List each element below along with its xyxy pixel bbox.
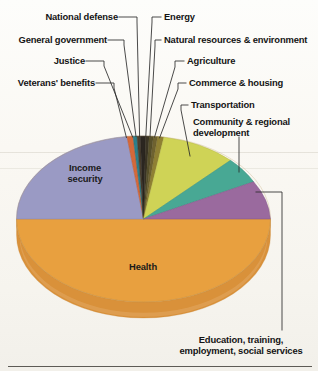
leader-justice (86, 61, 133, 137)
label-transportation: Transportation (191, 99, 255, 110)
label-general-government: General government (4, 34, 107, 45)
leader-commerce-housing (160, 83, 186, 138)
pie-top-face (16, 136, 270, 302)
label-energy: Energy (164, 11, 195, 22)
label-commerce-housing: Commerce & housing (189, 77, 283, 88)
label-education-line1: Education, training, (199, 334, 284, 345)
leader-agriculture (155, 61, 184, 137)
label-income-security: Income security (45, 162, 125, 184)
label-education-line2: employment, social services (179, 345, 302, 356)
label-community-regional-development: Community & regional development (193, 116, 315, 139)
label-justice: Justice (4, 55, 85, 66)
label-community-regional-line1: Community & regional (193, 116, 290, 127)
leader-general-government (108, 40, 136, 137)
label-income-security-line1: Income (69, 162, 101, 173)
label-national-defense: National defense (6, 11, 118, 22)
label-veterans-benefits: Veterans' benefits (2, 77, 95, 88)
label-agriculture: Agriculture (187, 55, 235, 66)
figure-canvas: National defense General government Just… (0, 0, 318, 371)
label-community-regional-line2: development (193, 127, 249, 138)
label-health: Health (103, 261, 183, 272)
label-income-security-line2: security (67, 173, 102, 184)
label-natural-resources: Natural resources & environment (164, 34, 307, 45)
label-education-training: Education, training, employment, social … (168, 334, 314, 357)
